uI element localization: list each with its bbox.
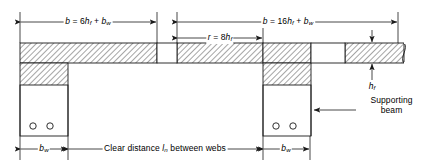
- label-overhang-r: r = 8hf: [206, 33, 233, 44]
- flange-segment-right: [263, 43, 311, 63]
- web-right-stem: [263, 85, 311, 136]
- label-web-width-left-bw: bw: [38, 144, 50, 155]
- web-right: [263, 63, 311, 136]
- flange-slab: [20, 43, 404, 63]
- rebar-dot: [290, 123, 296, 129]
- rebar-dot: [30, 123, 36, 129]
- rebar-dot: [47, 123, 53, 129]
- flange-gap-joint-2: [311, 43, 345, 63]
- label-clear-distance-ln: Clear distance ln between webs: [103, 144, 228, 155]
- flange-gap-joint-1: [157, 43, 177, 63]
- label-effective-width-right: b = 16hf + bw: [261, 17, 315, 28]
- web-left-stem: [20, 85, 68, 136]
- label-web-width-right-bw: bw: [280, 144, 292, 155]
- flange-segment-far: [345, 43, 404, 63]
- supporting-beam-line1: Supporting: [370, 95, 412, 105]
- label-flange-thickness-hf: hf: [367, 82, 377, 93]
- flange-segment-mid: [177, 43, 263, 63]
- label-effective-width-left: b = 6hf + bw: [64, 17, 113, 28]
- web-left: [20, 63, 68, 136]
- flange-segment-left: [20, 43, 157, 63]
- figure-canvas: b = 6hf + bw b = 16hf + bw r = 8hf hf bw…: [0, 0, 428, 167]
- web-right-hatched-upper: [263, 63, 311, 85]
- rebar-dot: [273, 123, 279, 129]
- supporting-beam-line2: beam: [381, 105, 403, 115]
- web-left-hatched-upper: [20, 63, 68, 85]
- label-supporting-beam: Supporting beam: [358, 96, 425, 115]
